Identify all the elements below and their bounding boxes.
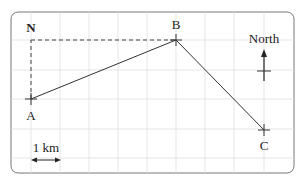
north-label: North xyxy=(249,31,280,46)
label-a: A xyxy=(26,108,36,123)
bearing-diagram: N A B C North 1 km xyxy=(0,0,304,183)
scale-label: 1 km xyxy=(33,140,59,155)
label-n: N xyxy=(26,20,36,35)
label-b: B xyxy=(172,17,181,32)
label-c: C xyxy=(260,138,269,153)
